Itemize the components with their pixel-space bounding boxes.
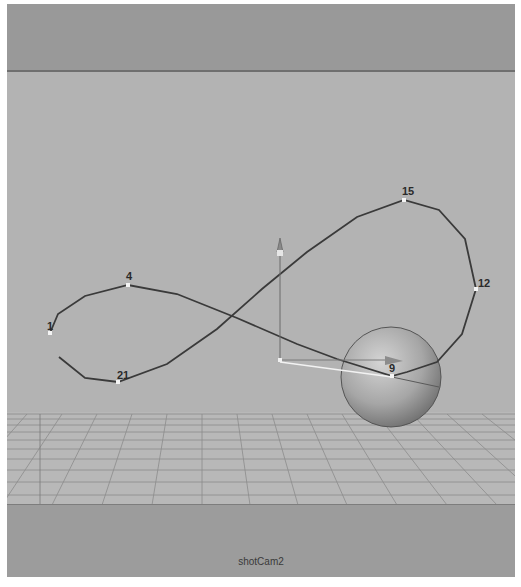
cv-point-4[interactable]	[126, 283, 130, 287]
ground-grid	[7, 412, 515, 505]
scene-canvas[interactable]: 1 4 15 12 9 21	[7, 4, 515, 577]
cv-label-1: 1	[47, 320, 53, 332]
cv-point-9[interactable]	[390, 374, 394, 378]
cv-label-4: 4	[126, 270, 133, 282]
3d-viewport[interactable]: 1 4 15 12 9 21 shotCam2	[7, 4, 515, 577]
camera-name-label: shotCam2	[7, 556, 515, 567]
cv-label-12: 12	[478, 277, 490, 289]
cv-point-15[interactable]	[402, 198, 406, 202]
resolution-gate-bottom-mask: shotCam2	[7, 504, 515, 577]
cv-label-21: 21	[117, 369, 129, 381]
y-axis-arrow-icon	[277, 238, 283, 252]
cv-label-9: 9	[389, 362, 395, 374]
cv-label-15: 15	[402, 185, 414, 197]
